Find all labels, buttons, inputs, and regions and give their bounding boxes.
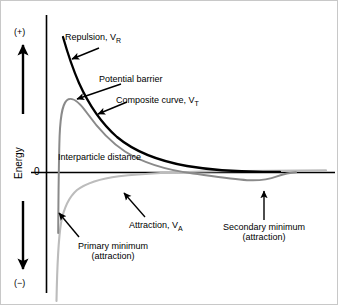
annotation-attraction: Attraction, VA: [129, 220, 183, 233]
annotation-repulsion: Repulsion, VR: [65, 32, 121, 45]
annotation-composite-curve-subscript: T: [195, 100, 199, 107]
annotation-secondary-minimum: Secondary minimum (attraction): [204, 222, 324, 243]
plot-canvas: [1, 1, 338, 305]
annotation-secondary-minimum-line2: (attraction): [204, 232, 324, 242]
y-axis-title: Energy: [13, 147, 24, 179]
annotation-secondary-minimum-line1: Secondary minimum: [204, 222, 324, 232]
y-axis-negative-sign: (−): [14, 278, 25, 288]
annotation-primary-minimum: Primary minimum (attraction): [59, 241, 167, 262]
attraction-leader-arrow: [124, 193, 145, 217]
annotation-repulsion-text: Repulsion, V: [65, 32, 116, 42]
primary-minimum-leader-arrow: [59, 213, 79, 237]
x-axis-title: Interparticle distance: [58, 152, 141, 162]
annotation-attraction-text: Attraction, V: [129, 220, 178, 230]
composite-curve: [58, 99, 296, 233]
y-axis-zero-label: 0: [34, 166, 40, 177]
y-axis-positive-sign: (+): [14, 27, 25, 37]
annotation-primary-minimum-line2: (attraction): [59, 251, 167, 261]
annotation-primary-minimum-line1: Primary minimum: [59, 241, 167, 251]
annotation-composite-curve: Composite curve, VT: [116, 95, 199, 108]
annotation-repulsion-subscript: R: [116, 37, 121, 44]
annotation-potential-barrier: Potential barrier: [99, 74, 163, 84]
annotation-attraction-subscript: A: [178, 225, 183, 232]
repulsion-leader-arrow: [72, 48, 99, 59]
dlvo-potential-energy-diagram: (+) (−) Energy 0 Repulsion, VR Potential…: [0, 0, 338, 305]
annotation-composite-curve-text: Composite curve, V: [116, 95, 195, 105]
